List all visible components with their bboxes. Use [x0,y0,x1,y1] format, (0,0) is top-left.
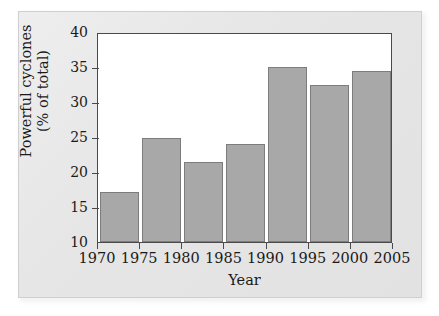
bar [142,138,181,242]
x-axis-tick [97,243,98,249]
x-axis-tick [308,243,309,249]
bar [184,162,223,242]
bar [268,67,307,242]
x-axis-title: Year [97,272,392,288]
bar [352,71,391,243]
x-axis-tick [139,243,140,249]
plot-area [97,33,392,243]
x-axis-tick-label: 1990 [243,250,289,266]
y-axis-tick [92,103,99,104]
y-axis-tick-label: 35 [58,60,88,74]
y-axis-tick-label: 30 [58,95,88,109]
bar [100,192,139,242]
x-axis-tick-label: 2000 [327,250,373,266]
x-axis-tick [392,243,393,249]
x-axis-tick-label: 1970 [74,250,120,266]
x-axis-tick-label: 1980 [158,250,204,266]
bar [310,85,349,242]
x-axis-tick-label: 1985 [200,250,246,266]
y-axis-tick [92,208,99,209]
y-axis-title-line2: (% of total) [35,0,52,186]
y-axis-title-line1: Powerful cyclones [18,25,34,158]
x-axis-tick [266,243,267,249]
x-axis-tick [181,243,182,249]
x-axis-tick-label: 1995 [285,250,331,266]
y-axis-tick [92,173,99,174]
bars-layer [98,34,391,242]
y-axis-tick-label: 40 [58,25,88,39]
y-axis-tick-label: 20 [58,165,88,179]
bar [226,144,265,242]
x-axis-tick [223,243,224,249]
y-axis-tick [92,68,99,69]
x-axis-tick-label: 2005 [369,250,415,266]
x-axis-tick-label: 1975 [116,250,162,266]
x-axis-tick [350,243,351,249]
y-axis-tick [92,138,99,139]
y-axis-tick-label: 15 [58,200,88,214]
bar-chart: 10152025303540 1970197519801985199019952… [0,0,439,316]
figure-root: 10152025303540 1970197519801985199019952… [0,0,439,316]
y-axis-tick-label: 25 [58,130,88,144]
y-axis-tick-label: 10 [58,235,88,249]
y-axis-title: Powerful cyclones (% of total) [18,0,52,186]
